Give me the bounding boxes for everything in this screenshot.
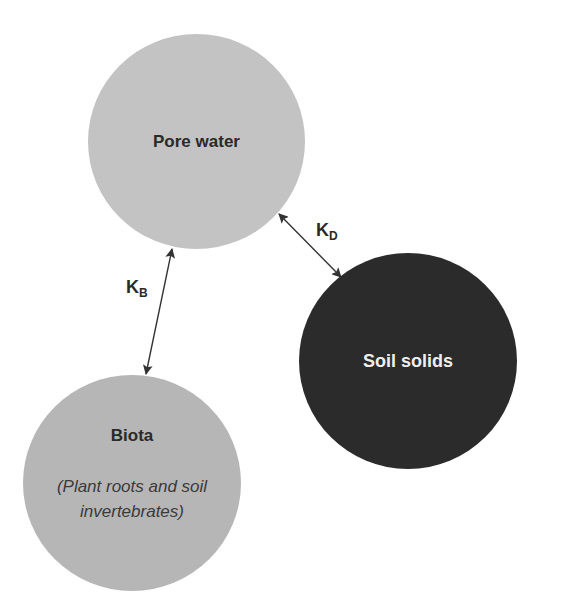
biota-node: Biota (Plant roots and soil invertebrate…: [23, 375, 241, 591]
kd-label: KD: [316, 221, 338, 245]
biota-description: (Plant roots and soil invertebrates): [57, 474, 207, 524]
pore-water-label: Pore water: [153, 132, 240, 152]
biota-description-line2: invertebrates): [80, 502, 184, 521]
kd-subscript: D: [329, 229, 338, 243]
soil-solids-node: Soil solids: [299, 253, 517, 469]
kb-label: KB: [126, 278, 148, 302]
biota-label: Biota: [111, 426, 154, 446]
kb-arrow: [146, 249, 172, 374]
kd-main: K: [316, 220, 329, 240]
pore-water-node: Pore water: [88, 34, 305, 249]
diagram-canvas: Pore water Soil solids Biota (Plant root…: [0, 0, 561, 602]
soil-solids-label: Soil solids: [363, 351, 453, 371]
kb-main: K: [126, 277, 139, 297]
biota-description-line1: (Plant roots and soil: [57, 477, 207, 496]
kb-subscript: B: [139, 286, 148, 300]
